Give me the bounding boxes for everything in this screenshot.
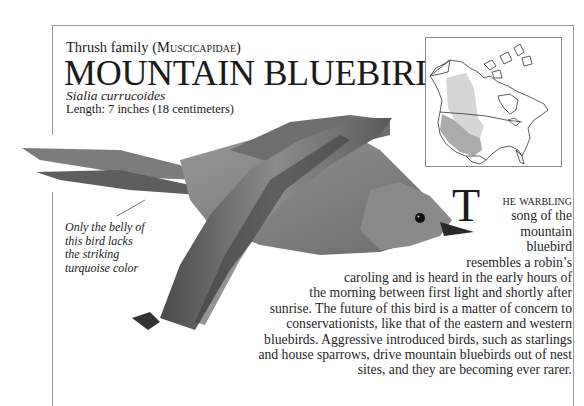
body-line: he warbling	[258, 193, 572, 208]
caption-line: the striking	[65, 248, 145, 262]
body-line: mountain	[258, 224, 572, 239]
caption-line: this bird lacks	[65, 235, 145, 249]
body-line: sites, and they are becoming ever rarer.	[258, 362, 572, 377]
body-line: bluebirds. Aggressive introduced birds, …	[258, 332, 572, 347]
body-line: sunrise. The future of this bird is a ma…	[258, 301, 572, 316]
body-line: resembles a robin’s	[258, 255, 572, 270]
caption-line: Only the belly of	[65, 221, 145, 235]
body-paragraph: he warbling song of the mountain bluebir…	[258, 193, 572, 378]
caption-line: turquoise color	[65, 262, 145, 276]
belly-caption: Only the belly of this bird lacks the st…	[65, 221, 145, 275]
body-line: and house sparrows, drive mountain blueb…	[258, 347, 572, 362]
body-line: caroling and is heard in the early hours…	[258, 270, 572, 285]
body-line: conservationists, like that of the easte…	[258, 316, 572, 331]
body-line: bluebird	[258, 239, 572, 254]
body-line: the morning between first light and shor…	[258, 285, 572, 300]
body-line: song of the	[258, 208, 572, 223]
